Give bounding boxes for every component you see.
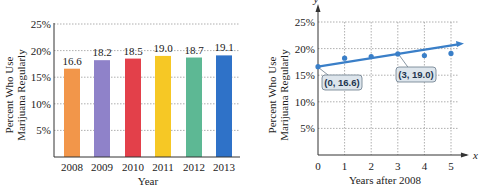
y-tick-label: 20% (295, 43, 315, 55)
x-tick-label: 4 (422, 160, 428, 172)
y-tick-label: 25% (31, 18, 51, 30)
y-tick-label: 10% (295, 96, 315, 108)
data-point (395, 51, 400, 56)
trend-line (318, 44, 458, 66)
x-tick-label: 0 (315, 160, 321, 172)
bar-2010 (125, 59, 141, 157)
bar-value-label: 18.5 (123, 45, 143, 57)
y-axis-label: Percent Who UseMarijuana Regularly (266, 49, 290, 141)
data-point (422, 53, 427, 58)
data-point (448, 51, 453, 56)
y-tick-label: 15% (31, 71, 51, 83)
x-axis-symbol: x (472, 149, 478, 161)
scatter-chart: 5%10%15%20%25%012345xy(0, 16.6)(3, 19.0)… (266, 0, 478, 186)
charts-figure: 5%10%15%20%25%16.6200818.2200918.5201019… (0, 0, 482, 195)
x-tick-label: 2012 (183, 161, 205, 173)
callout-label: (0, 16.6) (324, 77, 359, 88)
y-tick-label: 15% (295, 69, 315, 81)
y-tick-label: 5% (36, 124, 51, 136)
callout-leader (400, 56, 408, 67)
bar-value-label: 18.7 (184, 44, 204, 56)
data-point (369, 54, 374, 59)
x-tick-label: 5 (448, 160, 454, 172)
x-axis-label: Years after 2008 (349, 174, 422, 186)
x-tick-label: 2009 (91, 161, 114, 173)
y-tick-label: 10% (31, 98, 51, 110)
bar-2012 (186, 58, 202, 157)
x-tick-label: 2 (368, 160, 374, 172)
y-axis-label: Percent Who UseMarijuana Regularly (3, 49, 27, 141)
callout-label: (3, 19.0) (398, 69, 433, 80)
bar-value-label: 18.2 (92, 46, 111, 58)
x-tick-label: 2013 (213, 161, 236, 173)
x-tick-label: 2010 (122, 161, 145, 173)
x-axis-label: Year (138, 175, 159, 187)
trend-arrow-icon (456, 41, 464, 47)
x-tick-label: 3 (395, 160, 401, 172)
bar-2009 (94, 60, 110, 157)
y-axis-symbol: y (313, 0, 319, 5)
data-point (342, 56, 347, 61)
x-tick-label: 1 (342, 160, 348, 172)
y-axis-arrow-icon (316, 4, 321, 12)
data-point (315, 64, 320, 69)
y-tick-label: 5% (300, 122, 315, 134)
bar-value-label: 16.6 (62, 55, 82, 67)
x-tick-label: 2011 (152, 161, 174, 173)
y-tick-label: 20% (31, 45, 51, 57)
x-tick-label: 2008 (61, 161, 84, 173)
bar-2011 (155, 56, 171, 157)
bar-value-label: 19.0 (153, 42, 173, 54)
y-tick-label: 25% (295, 16, 315, 28)
bar-value-label: 19.1 (214, 41, 233, 53)
x-axis-arrow-icon (461, 153, 469, 158)
bar-2013 (216, 55, 232, 157)
callout-leader (320, 69, 328, 75)
bar-2008 (64, 69, 80, 157)
bar-chart: 5%10%15%20%25%16.6200818.2200918.5201019… (3, 18, 240, 187)
